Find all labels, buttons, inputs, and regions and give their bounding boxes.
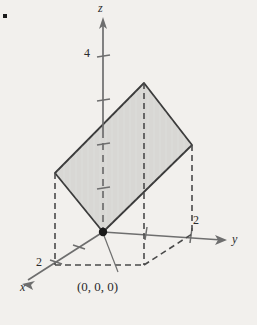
y-axis-line (103, 232, 222, 240)
x-tick-2 (50, 260, 62, 264)
origin-coordinate-label: (0, 0, 0) (77, 280, 118, 293)
z-tick-3 (97, 99, 110, 101)
shaded-parallelogram-surface (55, 83, 192, 232)
y-tick-label-2: 2 (193, 214, 199, 226)
z-tick-label-4: 4 (84, 47, 90, 59)
origin-leader-line (103, 233, 118, 272)
three-d-plot-svg (0, 0, 257, 325)
x-axis-label: x (20, 281, 25, 293)
y-axis (103, 227, 227, 245)
z-axis-label: z (98, 2, 103, 14)
y-tick-1 (145, 227, 147, 240)
figure-container: z y x 4 2 2 (0, 0, 0) (0, 0, 257, 325)
origin-point-dot (99, 228, 107, 236)
x-tick-label-2: 2 (36, 256, 42, 268)
z-tick-4 (97, 55, 110, 57)
y-axis-label: y (232, 233, 237, 245)
base-edge-far-to-y (144, 234, 192, 265)
